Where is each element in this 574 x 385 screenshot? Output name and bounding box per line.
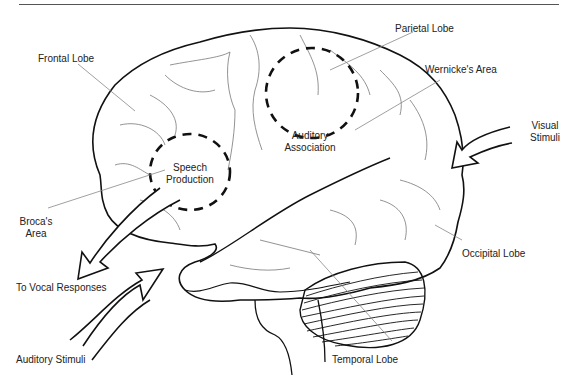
label-speech-production: Speech Production [160,162,220,186]
brainstem-right [318,300,325,362]
label-occipital-lobe: Occipital Lobe [462,248,525,260]
brainstem [255,300,292,375]
label-frontal-lobe: Frontal Lobe [38,53,94,65]
leader-lines [48,32,462,341]
label-brocas-area: Broca's Area [16,216,56,240]
label-auditory-stimuli: Auditory Stimuli [16,354,85,366]
cerebrum-outline [93,28,464,301]
label-visual-stimuli: Visual Stimuli [520,120,570,144]
label-to-vocal-responses: To Vocal Responses [16,282,107,294]
auditory-stimuli-arrow [70,269,163,346]
label-temporal-lobe: Temporal Lobe [332,354,398,366]
lateral-sulcus [200,158,390,262]
sulci [115,35,440,270]
label-parietal-lobe: Parietal Lobe [395,23,454,35]
auditory-association-region [266,48,358,138]
label-wernickes-area: Wernicke's Area [425,64,497,76]
vocal-response-arrow [78,188,180,279]
label-auditory-association: Auditory Association [280,130,340,154]
